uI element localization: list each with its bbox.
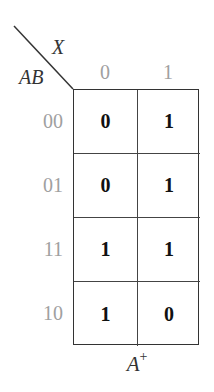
kmap-cell: 1 (138, 90, 200, 154)
kmap-cell: 1 (138, 154, 200, 218)
row-header-10: 10 (23, 303, 63, 323)
kmap-cell: 0 (138, 282, 200, 346)
karnaugh-map-grid: 0 1 0 1 1 1 1 0 (73, 89, 199, 345)
column-variable-label: X (52, 37, 64, 57)
kmap-cell: 1 (74, 218, 138, 282)
row-header-01: 01 (23, 175, 63, 195)
row-header-00: 00 (23, 111, 63, 131)
kmap-cell: 1 (138, 218, 200, 282)
kmap-cell: 0 (74, 90, 138, 154)
column-header-0: 0 (90, 62, 120, 82)
map-title: A+ (117, 354, 157, 375)
map-title-base: A (127, 352, 140, 376)
row-header-11: 11 (23, 239, 63, 259)
map-title-superscript: + (139, 349, 147, 364)
column-header-1: 1 (153, 62, 183, 82)
row-variable-label: AB (19, 67, 43, 87)
kmap-cell: 1 (74, 282, 138, 346)
kmap-cell: 0 (74, 154, 138, 218)
